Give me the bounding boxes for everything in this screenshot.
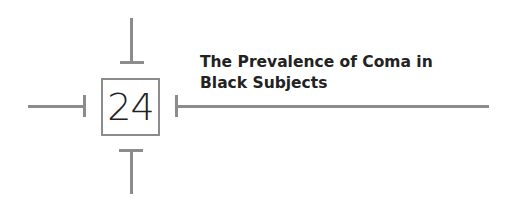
bottom-vertical-rule [130, 150, 133, 194]
chapter-title: The Prevalence of Coma in Black Subjects [200, 52, 480, 94]
chapter-title-line-1: The Prevalence of Coma in [200, 52, 480, 73]
chapter-number-box: 24 [101, 78, 160, 136]
left-horizontal-rule [28, 105, 84, 108]
chapter-number: 24 [107, 88, 153, 126]
left-tick [83, 95, 86, 117]
chapter-title-line-2: Black Subjects [200, 73, 480, 94]
right-horizontal-rule [177, 105, 489, 108]
top-vertical-rule [130, 18, 133, 62]
top-crossbar [120, 61, 144, 64]
